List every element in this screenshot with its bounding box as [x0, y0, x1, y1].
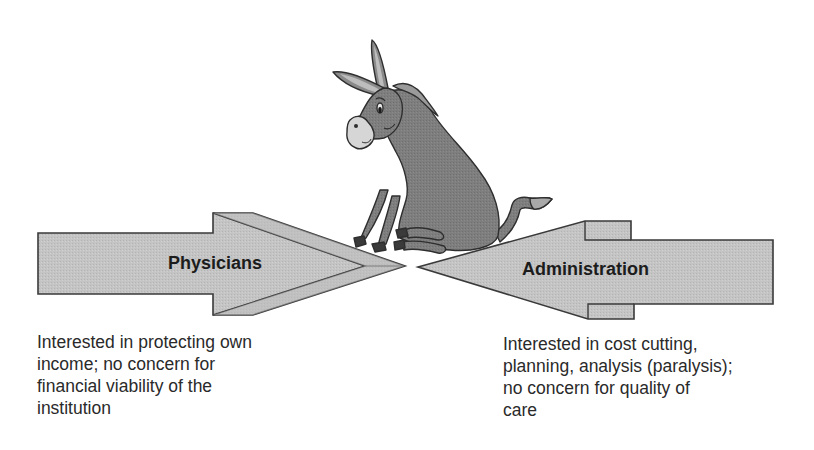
physicians-caption-line: income; no concern for: [37, 353, 252, 375]
physicians-label: Physicians: [168, 253, 262, 274]
administration-caption-line: Interested in cost cutting,: [503, 333, 733, 355]
donkey-icon: [333, 40, 552, 253]
physicians-caption-line: Interested in protecting own: [37, 331, 252, 353]
administration-label: Administration: [522, 259, 649, 280]
physicians-caption: Interested in protecting own income; no …: [37, 331, 252, 419]
administration-caption-line: no concern for quality of: [503, 377, 733, 399]
administration-caption-line: planning, analysis (paralysis);: [503, 355, 733, 377]
physicians-caption-line: financial viability of the: [37, 375, 252, 397]
administration-caption-line: care: [503, 399, 733, 421]
physicians-caption-line: institution: [37, 397, 252, 419]
administration-caption: Interested in cost cutting, planning, an…: [503, 333, 733, 421]
